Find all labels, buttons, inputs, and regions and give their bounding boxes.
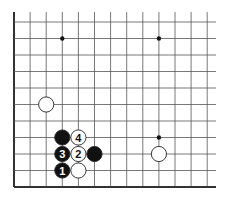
- black-stone-icon: [55, 130, 70, 145]
- white-stone: [151, 146, 166, 161]
- black-stone-icon: [87, 146, 102, 161]
- move-number: 4: [75, 132, 82, 144]
- black-stone: [87, 146, 102, 161]
- star-point-icon: [157, 135, 161, 139]
- white-stone-icon: [71, 163, 86, 178]
- white-stone-icon: [151, 146, 166, 161]
- star-point-icon: [60, 36, 64, 40]
- white-stone: [39, 97, 54, 112]
- go-board: 4321: [0, 0, 227, 203]
- move-number: 3: [59, 148, 65, 160]
- black-stone: 3: [55, 146, 70, 161]
- white-stone: [71, 163, 86, 178]
- white-stone: 2: [71, 146, 86, 161]
- black-stone: [55, 130, 70, 145]
- white-stone-icon: [39, 97, 54, 112]
- move-number: 1: [59, 165, 65, 177]
- white-stone: 4: [71, 130, 86, 145]
- move-number: 2: [75, 148, 81, 160]
- star-point-icon: [157, 36, 161, 40]
- black-stone: 1: [55, 163, 70, 178]
